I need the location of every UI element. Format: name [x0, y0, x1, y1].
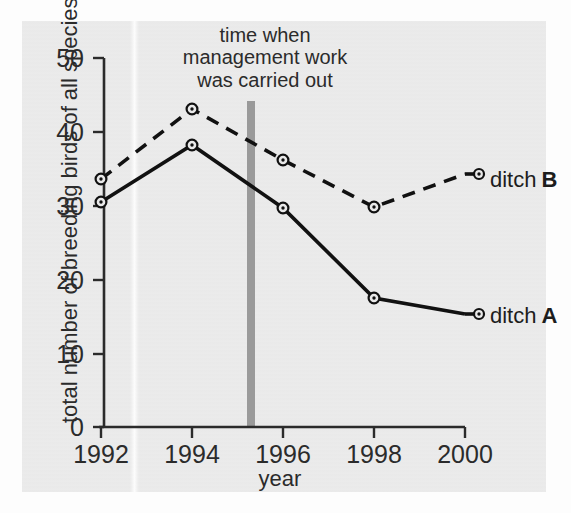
x-tick-label-2000: 2000 [420, 440, 510, 469]
x-axis-title: year [200, 466, 360, 492]
series-label-ditch-b-suffix: B [541, 167, 557, 192]
series-label-ditch-b: ditchB [490, 167, 557, 193]
series-line-ditch-a [101, 145, 465, 314]
annotation-line-2: management work [150, 46, 380, 68]
series-markers-ditch-b [96, 104, 484, 213]
x-tick-label-1998: 1998 [329, 440, 419, 469]
series-label-ditch-a-suffix: A [541, 303, 557, 328]
y-axis-title: total number of breeding birds of all sp… [57, 33, 83, 423]
series-label-ditch-b-prefix: ditch [490, 167, 536, 192]
management-work-bar [247, 101, 255, 427]
annotation-line-3: was carried out [150, 69, 380, 91]
annotation-line-1: time when [150, 24, 380, 46]
series-label-ditch-a-prefix: ditch [490, 303, 536, 328]
management-work-annotation: time when management work was carried ou… [150, 24, 380, 91]
y-axis-ticks [93, 58, 104, 427]
series-markers-ditch-a [96, 140, 484, 319]
x-axis-ticks [101, 427, 465, 438]
chart-figure: 50 40 30 20 10 0 1992 1994 1996 1998 200… [0, 0, 571, 513]
x-tick-label-1994: 1994 [147, 440, 237, 469]
series-label-ditch-a: ditchA [490, 303, 557, 329]
x-tick-label-1996: 1996 [238, 440, 328, 469]
x-tick-label-1992: 1992 [56, 440, 146, 469]
